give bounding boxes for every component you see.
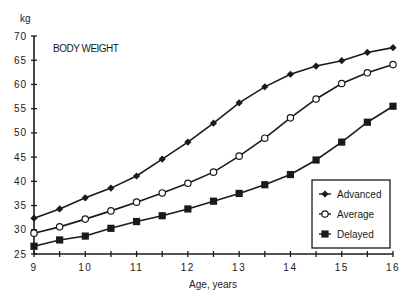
y-tick-label: 70: [14, 31, 27, 42]
data-point: [236, 153, 242, 159]
data-point: [107, 225, 114, 232]
data-point: [287, 171, 294, 178]
data-point: [364, 49, 371, 56]
data-point: [159, 212, 166, 219]
data-point: [210, 198, 217, 205]
data-point: [287, 71, 294, 78]
body-weight-chart: kg BODY WEIGHT 2530354045505560657091011…: [0, 0, 413, 301]
data-point: [133, 199, 139, 205]
legend: AdvancedAverageDelayed: [312, 180, 390, 248]
data-point: [364, 70, 370, 76]
data-point: [31, 230, 37, 236]
data-point: [184, 205, 191, 212]
data-point: [312, 62, 319, 69]
data-point: [236, 190, 243, 197]
x-tick-label: 16: [386, 262, 400, 273]
data-point: [30, 243, 37, 250]
y-tick-label: 40: [14, 176, 27, 187]
data-point: [338, 57, 345, 64]
data-point: [82, 232, 89, 239]
y-axis-label: kg: [20, 13, 31, 24]
data-point: [107, 185, 114, 192]
data-point: [30, 215, 37, 222]
y-tick-label: 65: [14, 55, 27, 66]
data-point: [56, 205, 63, 212]
data-point: [389, 103, 396, 110]
y-tick-label: 45: [14, 152, 27, 163]
data-point: [390, 61, 396, 67]
data-point: [339, 80, 345, 86]
y-tick-label: 60: [14, 79, 27, 90]
data-point: [338, 138, 345, 145]
legend-label: Average: [337, 209, 375, 220]
legend-label: Advanced: [337, 189, 381, 200]
data-point: [287, 115, 293, 121]
y-tick-label: 30: [14, 224, 27, 235]
data-point: [262, 135, 268, 141]
y-tick-label: 35: [14, 200, 27, 211]
data-point: [159, 190, 165, 196]
x-tick-label: 11: [130, 262, 143, 273]
data-point: [56, 236, 63, 243]
y-tick-label: 55: [14, 103, 27, 114]
data-point: [210, 169, 216, 175]
x-tick-label: 14: [283, 262, 297, 273]
data-point: [108, 208, 114, 214]
x-tick-label: 10: [78, 262, 92, 273]
data-point: [389, 44, 396, 51]
data-point: [312, 156, 319, 163]
x-tick-label: 13: [232, 262, 246, 273]
data-point: [261, 83, 268, 90]
data-point: [185, 180, 191, 186]
data-point: [313, 96, 319, 102]
x-axis-label: Age, years: [189, 279, 237, 290]
data-point: [133, 218, 140, 225]
data-point: [82, 216, 88, 222]
x-tick-label: 15: [335, 262, 349, 273]
y-tick-label: 25: [14, 249, 27, 260]
legend-marker-delayed: [321, 230, 328, 237]
y-tick-label: 50: [14, 127, 27, 138]
legend-label: Delayed: [337, 229, 374, 240]
data-point: [364, 119, 371, 126]
data-point: [261, 181, 268, 188]
x-tick-label: 12: [181, 262, 195, 273]
x-tick-label: 9: [30, 262, 37, 273]
legend-marker-average: [322, 211, 328, 217]
chart-title: BODY WEIGHT: [53, 43, 119, 54]
data-point: [56, 224, 62, 230]
data-point: [82, 194, 89, 201]
